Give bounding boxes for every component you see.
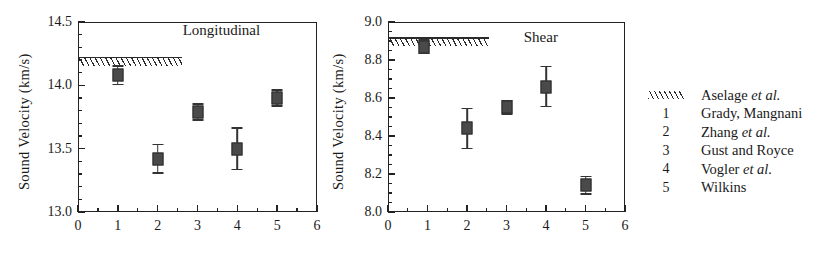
x-tick-label: 0 xyxy=(385,218,392,234)
x-tick-label: 3 xyxy=(503,218,510,234)
x-tick-minor xyxy=(605,208,606,212)
x-tick-minor xyxy=(407,208,408,212)
error-bar-cap-lower xyxy=(112,84,123,86)
legend-label: Aselage et al. xyxy=(687,87,780,104)
x-tick-major xyxy=(276,205,278,212)
x-tick-major xyxy=(237,205,239,212)
legend-key-number: 5 xyxy=(645,180,687,196)
y-tick-minor xyxy=(78,123,82,124)
y-tick-minor xyxy=(388,50,392,51)
plot-title-shear: Shear xyxy=(524,29,558,46)
x-tick-minor xyxy=(257,208,258,212)
x-tick-major xyxy=(545,205,547,212)
legend: Aselage et al.1Grady, Mangnani2Zhang et … xyxy=(645,86,835,197)
y-tick-minor xyxy=(388,116,392,117)
plot-title-longitudinal: Longitudinal xyxy=(183,22,261,39)
error-bar-cap-lower xyxy=(152,172,163,174)
x-tick-major xyxy=(624,205,626,212)
y-tick-minor xyxy=(78,34,82,35)
x-tick-label: 3 xyxy=(194,218,201,234)
data-marker xyxy=(501,101,512,114)
x-tick-minor xyxy=(217,208,218,212)
figure-root: Sound Velocity (km/s) 13.013.514.014.501… xyxy=(0,0,837,266)
y-tick-label: 8.2 xyxy=(334,166,382,182)
data-marker xyxy=(419,40,430,53)
y-tick-major xyxy=(78,148,85,150)
y-tick-minor xyxy=(78,199,82,200)
x-tick-label: 1 xyxy=(424,218,431,234)
y-tick-minor xyxy=(388,154,392,155)
error-bar-cap-lower xyxy=(580,193,591,195)
y-tick-minor xyxy=(78,186,82,187)
legend-row: 3Gust and Royce xyxy=(645,142,835,161)
x-tick-major xyxy=(197,205,199,212)
x-tick-minor xyxy=(97,208,98,212)
y-tick-label: 8.0 xyxy=(334,204,382,220)
x-tick-label: 4 xyxy=(543,218,550,234)
y-tick-label: 8.6 xyxy=(334,90,382,106)
x-tick-minor xyxy=(565,208,566,212)
y-tick-major xyxy=(388,135,395,137)
legend-row: 4Vogler et al. xyxy=(645,160,835,179)
error-bar-cap-upper xyxy=(112,65,123,67)
legend-row: 5Wilkins xyxy=(645,179,835,198)
y-axis-label-longitudinal: Sound Velocity (km/s) xyxy=(16,53,33,190)
error-bar-cap-lower xyxy=(232,169,243,171)
x-tick-label: 1 xyxy=(114,218,121,234)
legend-label: Grady, Mangnani xyxy=(687,105,802,122)
x-tick-label: 6 xyxy=(314,218,321,234)
x-tick-minor xyxy=(177,208,178,212)
error-bar-cap-lower xyxy=(192,119,203,121)
y-tick-minor xyxy=(388,183,392,184)
x-tick-major xyxy=(316,205,318,212)
x-tick-minor xyxy=(526,208,527,212)
legend-label: Gust and Royce xyxy=(687,142,794,159)
y-tick-label: 8.4 xyxy=(334,128,382,144)
data-marker xyxy=(232,142,243,155)
y-tick-label: 14.0 xyxy=(24,77,72,93)
x-tick-label: 6 xyxy=(622,218,629,234)
aselage-band-longitudinal xyxy=(78,57,182,66)
x-tick-major xyxy=(387,205,389,212)
error-bar-cap-upper xyxy=(580,176,591,178)
y-tick-minor xyxy=(388,31,392,32)
y-tick-minor xyxy=(388,202,392,203)
data-marker xyxy=(541,80,552,93)
x-tick-minor xyxy=(486,208,487,212)
y-tick-minor xyxy=(388,69,392,70)
error-bar-cap-upper xyxy=(152,144,163,146)
error-bar-cap-upper xyxy=(192,103,203,105)
x-tick-label: 5 xyxy=(274,218,281,234)
legend-key-number: 3 xyxy=(645,143,687,159)
y-tick-label: 9.0 xyxy=(334,14,382,30)
legend-label: Zhang et al. xyxy=(687,124,771,141)
legend-label: Wilkins xyxy=(687,179,746,196)
y-tick-minor xyxy=(78,97,82,98)
x-tick-major xyxy=(466,205,468,212)
legend-row: 2Zhang et al. xyxy=(645,123,835,142)
y-tick-major xyxy=(388,21,395,23)
chart-panel-longitudinal: Sound Velocity (km/s) 13.013.514.014.501… xyxy=(0,0,340,266)
y-tick-major xyxy=(78,85,85,87)
y-tick-minor xyxy=(388,164,392,165)
data-marker xyxy=(580,179,591,192)
x-tick-label: 4 xyxy=(234,218,241,234)
y-tick-minor xyxy=(388,107,392,108)
y-tick-minor xyxy=(78,135,82,136)
y-tick-minor xyxy=(388,145,392,146)
y-tick-minor xyxy=(78,72,82,73)
error-bar-cap-upper xyxy=(462,108,473,110)
legend-row: Aselage et al. xyxy=(645,86,835,105)
error-bar-cap-upper xyxy=(232,127,243,129)
x-tick-major xyxy=(117,205,119,212)
error-bar-cap-lower xyxy=(272,105,283,107)
aselage-band-shear xyxy=(388,37,489,46)
data-marker xyxy=(112,69,123,82)
error-bar-cap-upper xyxy=(272,89,283,91)
legend-key-number: 4 xyxy=(645,161,687,177)
error-bar-cap-lower xyxy=(462,148,473,150)
legend-key-number: 1 xyxy=(645,106,687,122)
y-tick-minor xyxy=(388,78,392,79)
x-tick-major xyxy=(77,205,79,212)
data-marker xyxy=(152,152,163,165)
